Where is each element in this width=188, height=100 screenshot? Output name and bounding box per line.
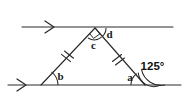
geometry-diagram: c d b a 125°: [0, 0, 188, 100]
angle-c-label: c: [91, 39, 96, 51]
angle-a-label: a: [127, 71, 133, 83]
angle-d-label: d: [106, 28, 112, 40]
geometry-figure-svg: c d b a 125°: [0, 0, 188, 100]
right-leg-tick-marks: [113, 55, 125, 66]
exterior-angle-arcs: [138, 70, 165, 87]
angle-d-arc: [102, 28, 106, 37]
exterior-angle-measure-label: 125°: [141, 60, 165, 72]
triangle-left-leg: [41, 28, 95, 85]
apex-right-angle-marker-icon: [89, 28, 100, 38]
angle-b-label: b: [57, 70, 63, 82]
